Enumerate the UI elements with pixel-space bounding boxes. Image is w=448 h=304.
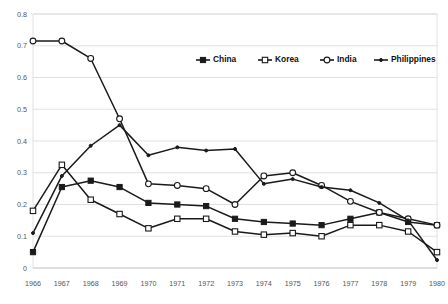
data-point-korea [59, 162, 64, 167]
data-point-china [261, 219, 266, 224]
data-point-china [59, 184, 64, 189]
series-china [30, 178, 439, 255]
x-axis-tick-label: 1977 [342, 279, 358, 288]
legend: ChinaKoreaIndiaPhilippines [196, 54, 436, 64]
data-point-india [174, 183, 180, 189]
y-axis-tick-label: 0.8 [17, 10, 27, 19]
x-axis-tick-label: 1972 [198, 279, 214, 288]
data-point-korea [146, 226, 151, 231]
data-point-philippines [205, 149, 208, 152]
data-point-korea [232, 229, 237, 234]
legend-item-india: India [320, 54, 357, 64]
data-point-china [175, 202, 180, 207]
x-axis-tick-label: 1974 [256, 279, 272, 288]
legend-item-korea: Korea [258, 54, 299, 64]
data-point-india [30, 38, 36, 44]
data-point-india [434, 222, 440, 228]
legend-item-china: China [196, 54, 237, 64]
x-axis-tick-label: 1966 [25, 279, 41, 288]
data-point-philippines [291, 178, 294, 181]
data-point-india [348, 198, 354, 204]
series-line-philippines [33, 125, 437, 260]
data-point-india [88, 56, 94, 62]
data-point-korea [348, 222, 353, 227]
xtick-layer: 1966196719681969197019711972197319741975… [25, 279, 445, 288]
x-axis-tick-label: 1973 [227, 279, 243, 288]
data-point-philippines [176, 146, 179, 149]
chart-canvas: 00.10.20.30.40.50.60.70.8 19661967196819… [0, 0, 448, 304]
data-point-philippines [436, 259, 439, 262]
data-point-korea [88, 197, 93, 202]
data-point-china [348, 216, 353, 221]
data-point-china [290, 221, 295, 226]
y-axis-tick-label: 0.5 [17, 105, 27, 114]
legend-label-korea: Korea [275, 54, 299, 64]
data-point-india [376, 210, 382, 216]
data-point-korea [405, 229, 410, 234]
legend-label-india: India [337, 54, 357, 64]
ytick-layer: 00.10.20.30.40.50.60.70.8 [17, 10, 27, 273]
data-point-china [146, 200, 151, 205]
data-point-philippines [234, 147, 237, 150]
data-point-philippines [89, 144, 92, 147]
data-point-korea [261, 232, 266, 237]
data-point-philippines [147, 154, 150, 157]
legend-marker-korea [262, 57, 267, 62]
series-philippines [32, 124, 439, 262]
y-axis-tick-label: 0.2 [17, 200, 27, 209]
series-layer [30, 38, 440, 261]
data-point-china [319, 223, 324, 228]
x-axis-tick-label: 1969 [112, 279, 128, 288]
line-chart: 00.10.20.30.40.50.60.70.8 19661967196819… [0, 0, 448, 304]
data-point-india [117, 116, 123, 122]
data-point-korea [203, 216, 208, 221]
data-point-philippines [262, 182, 265, 185]
data-point-korea [117, 211, 122, 216]
x-axis-tick-label: 1968 [83, 279, 99, 288]
data-point-philippines [320, 186, 323, 189]
data-point-china [117, 184, 122, 189]
x-axis-tick-label: 1970 [140, 279, 156, 288]
x-axis-tick-label: 1975 [285, 279, 301, 288]
legend-label-china: China [213, 54, 237, 64]
data-point-india [232, 202, 238, 208]
data-point-philippines [378, 201, 381, 204]
legend-label-philippines: Philippines [391, 54, 436, 64]
data-point-india [146, 181, 152, 187]
x-axis-tick-label: 1971 [169, 279, 185, 288]
y-axis-tick-label: 0 [23, 264, 27, 273]
data-point-china [30, 250, 35, 255]
data-point-india [59, 38, 65, 44]
series-korea [30, 162, 439, 255]
y-axis-tick-label: 0.7 [17, 41, 27, 50]
y-axis-tick-label: 0.3 [17, 168, 27, 177]
data-point-india [261, 173, 267, 179]
x-axis-tick-label: 1976 [314, 279, 330, 288]
data-point-philippines [118, 124, 121, 127]
data-point-china [232, 216, 237, 221]
data-point-china [204, 203, 209, 208]
y-axis-tick-label: 0.4 [17, 137, 27, 146]
data-point-philippines [407, 219, 410, 222]
x-axis-tick-label: 1967 [54, 279, 70, 288]
data-point-korea [175, 216, 180, 221]
x-axis-tick-label: 1980 [429, 279, 445, 288]
data-point-india [290, 170, 296, 176]
data-point-india [203, 186, 209, 192]
data-point-korea [434, 249, 439, 254]
legend-item-philippines: Philippines [374, 54, 436, 64]
data-point-korea [290, 230, 295, 235]
data-point-philippines [60, 174, 63, 177]
legend-marker-india [324, 57, 330, 63]
y-axis-tick-label: 0.1 [17, 232, 27, 241]
data-point-china [88, 178, 93, 183]
x-axis-tick-label: 1978 [371, 279, 387, 288]
y-axis-tick-label: 0.6 [17, 73, 27, 82]
data-point-philippines [32, 232, 35, 235]
data-point-korea [377, 222, 382, 227]
legend-marker-china [200, 57, 205, 62]
data-point-korea [319, 234, 324, 239]
data-point-philippines [349, 189, 352, 192]
legend-marker-philippines [380, 59, 383, 62]
data-point-korea [30, 208, 35, 213]
